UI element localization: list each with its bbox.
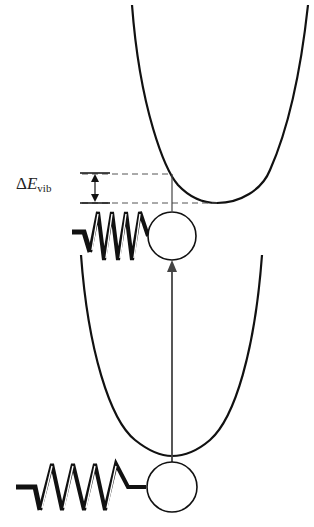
lower-spring	[16, 464, 146, 510]
upper-spring	[72, 212, 148, 260]
delta-e-arrowhead-down	[91, 194, 99, 202]
transition-arrowhead-icon	[167, 260, 177, 272]
delta-e-vib-label: ΔEvib	[16, 174, 51, 194]
upper-atom-circle	[148, 212, 196, 260]
energy-symbol: E	[27, 174, 37, 193]
upper-potential-curve	[132, 5, 308, 203]
delta-e-arrowhead-up	[91, 174, 99, 182]
lower-atom-circle	[147, 462, 197, 512]
delta-symbol: Δ	[16, 174, 27, 193]
diagram-canvas	[0, 0, 314, 527]
vib-subscript: vib	[37, 182, 51, 194]
